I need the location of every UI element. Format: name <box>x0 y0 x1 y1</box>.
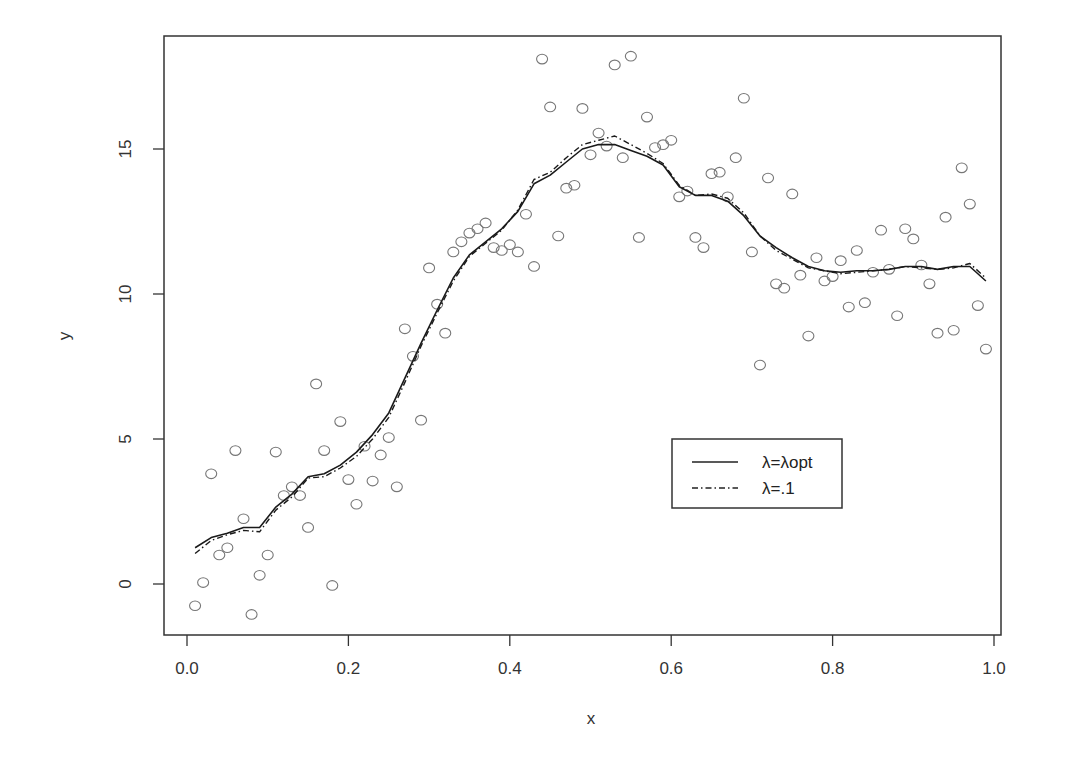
data-point <box>206 469 217 479</box>
y-tick-label: 15 <box>116 140 135 159</box>
data-point <box>456 237 467 247</box>
data-point <box>246 610 257 620</box>
data-point <box>214 550 225 560</box>
data-point <box>351 499 362 509</box>
data-point <box>593 128 604 138</box>
y-tick-label: 5 <box>116 434 135 443</box>
data-point <box>763 173 774 183</box>
data-point <box>908 234 919 244</box>
data-point <box>311 379 322 389</box>
data-point <box>714 167 725 177</box>
data-point <box>730 153 741 163</box>
data-point <box>190 601 201 611</box>
data-point <box>779 283 790 293</box>
legend-label-01: λ=.1 <box>762 479 795 498</box>
data-point <box>504 240 515 250</box>
curve-lambda-0-1 <box>195 136 986 554</box>
smoothing-curves <box>195 136 986 554</box>
data-point <box>512 247 523 257</box>
data-point <box>399 324 410 334</box>
data-point <box>746 247 757 257</box>
data-point <box>375 450 386 460</box>
x-tick-label: 0.6 <box>659 659 683 678</box>
data-point <box>262 550 273 560</box>
plot-frame <box>164 36 1001 635</box>
data-point <box>835 256 846 266</box>
data-point <box>876 225 887 235</box>
y-tick-label: 10 <box>116 285 135 304</box>
data-point <box>319 446 330 456</box>
data-point <box>464 228 475 238</box>
scatter-points <box>190 51 992 619</box>
data-point <box>964 199 975 209</box>
x-tick-label: 0.0 <box>175 659 199 678</box>
data-point <box>577 104 588 114</box>
data-point <box>972 301 983 311</box>
data-point <box>609 60 620 70</box>
data-point <box>633 233 644 243</box>
data-point <box>537 54 548 64</box>
legend: λ=λopt λ=.1 <box>672 439 842 508</box>
data-point <box>343 475 354 485</box>
y-axis-title: y <box>55 331 74 340</box>
data-point <box>529 262 540 272</box>
data-point <box>617 153 628 163</box>
legend-label-opt: λ=λopt <box>762 453 813 472</box>
x-axis: 0.00.20.40.60.81.0 <box>175 635 1006 678</box>
data-point <box>859 298 870 308</box>
x-tick-label: 0.4 <box>498 659 522 678</box>
data-point <box>545 102 556 112</box>
data-point <box>787 189 798 199</box>
data-point <box>867 267 878 277</box>
data-point <box>754 360 765 370</box>
data-point <box>819 276 830 286</box>
data-point <box>948 325 959 335</box>
data-point <box>811 253 822 263</box>
x-tick-label: 0.8 <box>821 659 845 678</box>
data-point <box>900 224 911 234</box>
data-point <box>520 209 531 219</box>
data-point <box>254 571 265 581</box>
data-point <box>335 417 346 427</box>
data-point <box>625 51 636 61</box>
data-point <box>892 311 903 321</box>
data-point <box>641 112 652 122</box>
data-point <box>585 150 596 160</box>
data-point <box>303 523 314 533</box>
data-point <box>440 328 451 338</box>
data-point <box>803 331 814 341</box>
data-point <box>327 581 338 591</box>
data-point <box>480 218 491 228</box>
scatter-smoothing-chart: 0.00.20.40.60.81.0 051015 x y λ=λopt λ=.… <box>0 0 1067 763</box>
data-point <box>416 415 427 425</box>
data-point <box>230 446 241 456</box>
data-point <box>383 433 394 443</box>
data-point <box>601 141 612 151</box>
data-point <box>795 270 806 280</box>
data-point <box>690 233 701 243</box>
data-point <box>706 169 717 179</box>
data-point <box>553 231 564 241</box>
data-point <box>238 514 249 524</box>
data-point <box>666 136 677 146</box>
data-point <box>956 163 967 173</box>
y-tick-label: 0 <box>116 579 135 588</box>
data-point <box>940 212 951 222</box>
data-point <box>448 247 459 257</box>
data-point <box>391 482 402 492</box>
data-point <box>698 243 709 253</box>
data-point <box>367 476 378 486</box>
x-axis-title: x <box>587 709 596 728</box>
data-point <box>278 491 289 501</box>
x-tick-label: 0.2 <box>337 659 361 678</box>
y-axis: 051015 <box>116 140 164 589</box>
data-point <box>738 93 749 103</box>
data-point <box>771 279 782 289</box>
data-point <box>843 302 854 312</box>
data-point <box>198 578 209 588</box>
data-point <box>851 246 862 256</box>
data-point <box>222 543 233 553</box>
x-tick-label: 1.0 <box>982 659 1006 678</box>
data-point <box>980 344 991 354</box>
data-point <box>932 328 943 338</box>
